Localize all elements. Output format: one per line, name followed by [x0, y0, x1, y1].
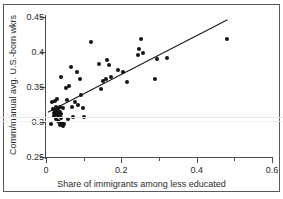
y-axis-label: Comm/manual avg. U.S.-born wkrs [8, 10, 18, 160]
x-tick-mark [121, 158, 122, 163]
data-point [65, 98, 69, 102]
x-tick-mark [197, 158, 198, 163]
plot-area [46, 17, 272, 157]
data-point [116, 68, 120, 72]
x-minor-tick-mark [234, 158, 235, 161]
data-point [49, 122, 53, 126]
regression-line [46, 17, 272, 157]
x-tick-label: 0.2 [106, 166, 136, 175]
y-tick-label: 0.45 [14, 13, 44, 22]
x-axis-label: Share of immigrants among less educated [0, 179, 283, 189]
data-point [97, 62, 101, 66]
data-point [99, 87, 103, 91]
data-point [66, 117, 70, 121]
x-tick-mark [272, 158, 273, 163]
x-tick-label: 0 [31, 166, 61, 175]
y-tick-label: 0.25 [14, 153, 44, 162]
x-tick-label: 0.6 [257, 166, 283, 175]
data-point [109, 75, 113, 79]
x-tick-mark [46, 158, 47, 163]
data-point [67, 84, 71, 88]
y-tick-label: 0.4 [14, 48, 44, 57]
data-point [141, 51, 145, 55]
data-point [139, 37, 143, 41]
y-tick-label: 0.35 [14, 83, 44, 92]
x-minor-tick-mark [84, 158, 85, 161]
data-point [70, 105, 74, 109]
data-point [69, 65, 73, 69]
data-point [76, 103, 80, 107]
data-point [81, 106, 85, 110]
data-point [82, 115, 86, 119]
scatter-plot-figure: 0.250.30.350.40.45 00.20.40.6 Share of i… [0, 0, 283, 199]
x-minor-tick-mark [159, 158, 160, 161]
data-point [104, 77, 108, 81]
x-tick-label: 0.4 [182, 166, 212, 175]
data-point [107, 63, 111, 67]
data-point [136, 53, 140, 57]
y-tick-label: 0.3 [14, 118, 44, 127]
